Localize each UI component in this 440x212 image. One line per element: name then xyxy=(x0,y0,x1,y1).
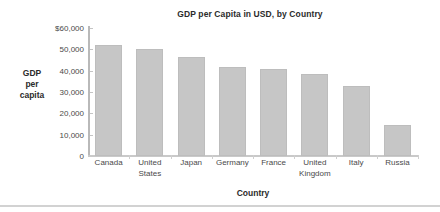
x-axis-tick-label-line: Germany xyxy=(216,158,249,169)
y-axis-tick-label: $60,000 xyxy=(34,24,84,33)
y-axis-tick-labels: $60,00050,00040,00030,00020,00010,0000 xyxy=(32,0,84,212)
y-axis-tick-label: 30,000 xyxy=(34,88,84,97)
y-axis-tick-label: 10,000 xyxy=(34,130,84,139)
bar-chart-figure: GDP per Capita in USD, by Country GDP pe… xyxy=(0,0,440,212)
bottom-divider xyxy=(0,205,440,207)
bars-container xyxy=(88,28,418,156)
x-axis-tick-label-line: Italy xyxy=(349,158,364,169)
x-axis-tick-label-line: Canada xyxy=(95,158,123,169)
y-axis-tick-label: 40,000 xyxy=(34,66,84,75)
x-axis-tick-label-line: Kingdom xyxy=(299,169,331,180)
x-axis-tick-label-line: United xyxy=(299,158,331,169)
bar xyxy=(178,57,205,156)
bar xyxy=(95,45,122,156)
x-axis-tick-label-line: France xyxy=(261,158,286,169)
x-axis-tick-label: Canada xyxy=(95,158,123,169)
x-axis-tick-labels: CanadaUnitedStatesJapanGermanyFranceUnit… xyxy=(88,158,418,188)
x-axis-tick-label: UnitedKingdom xyxy=(299,158,331,179)
x-axis-tick-label: UnitedStates xyxy=(138,158,161,179)
bar xyxy=(384,125,411,156)
x-axis-title: Country xyxy=(88,188,418,198)
chart-title: GDP per Capita in USD, by Country xyxy=(150,9,350,19)
bar xyxy=(343,86,370,156)
bar xyxy=(219,67,246,156)
x-axis-tick-label-line: United xyxy=(138,158,161,169)
bar xyxy=(260,69,287,156)
x-axis-tick-label: Japan xyxy=(180,158,202,169)
x-axis-tick-label: Italy xyxy=(349,158,364,169)
x-axis-tick-label-line: Japan xyxy=(180,158,202,169)
x-axis-tick-label-line: States xyxy=(138,169,161,180)
x-axis-tick-label: France xyxy=(261,158,286,169)
y-axis-tick-label: 50,000 xyxy=(34,45,84,54)
x-axis-tick-mark xyxy=(418,155,419,159)
y-axis-tick-label: 20,000 xyxy=(34,109,84,118)
y-axis-tick-label: 0 xyxy=(34,152,84,161)
x-axis-tick-label: Germany xyxy=(216,158,249,169)
x-axis-tick-label-line: Russia xyxy=(385,158,409,169)
x-axis-tick-label: Russia xyxy=(385,158,409,169)
bar xyxy=(136,49,163,156)
bar xyxy=(301,74,328,156)
